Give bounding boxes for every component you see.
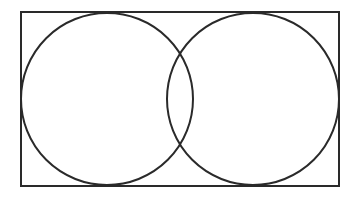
diagram-canvas [0,0,360,198]
venn-figure [0,0,360,198]
background [0,0,360,198]
